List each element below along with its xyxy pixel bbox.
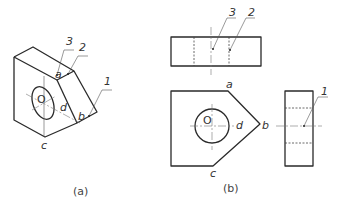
vertex-c: c: [210, 167, 216, 180]
caption-b: (b): [223, 182, 239, 195]
vertex-c: c: [41, 139, 47, 152]
leader-2: [68, 56, 88, 74]
vertex-a: a: [226, 78, 233, 91]
vertex-d: d: [236, 119, 244, 132]
caption-a: (a): [73, 185, 88, 198]
label-2: 2: [79, 41, 86, 54]
vertex-b: b: [262, 119, 269, 132]
outline: [14, 47, 97, 137]
label-3: 3: [66, 35, 73, 48]
vertex-b: b: [78, 110, 85, 123]
top-view: 3 2: [171, 6, 261, 75]
top-view-outline: [171, 37, 261, 66]
side-view: 1: [276, 85, 328, 166]
label-2: 2: [248, 6, 255, 19]
leader-1: [304, 97, 328, 126]
front-view: a b c d O (b): [171, 78, 269, 195]
vertex-a: a: [55, 68, 62, 81]
isometric-view: 3 2 1 a b c d O (a): [14, 35, 112, 198]
leader-2: [230, 18, 255, 50]
label-1: 1: [104, 75, 111, 88]
center-o: O: [203, 114, 212, 127]
label-3: 3: [229, 6, 236, 19]
side-view-outline: [285, 91, 313, 166]
label-1: 1: [321, 85, 328, 98]
technical-drawing: 3 2 1 a b c d O (a) 3 2 a b c d O (b): [0, 0, 340, 208]
front-view-outline: [171, 91, 260, 166]
vertex-d: d: [60, 101, 68, 114]
center-o: O: [37, 93, 46, 106]
